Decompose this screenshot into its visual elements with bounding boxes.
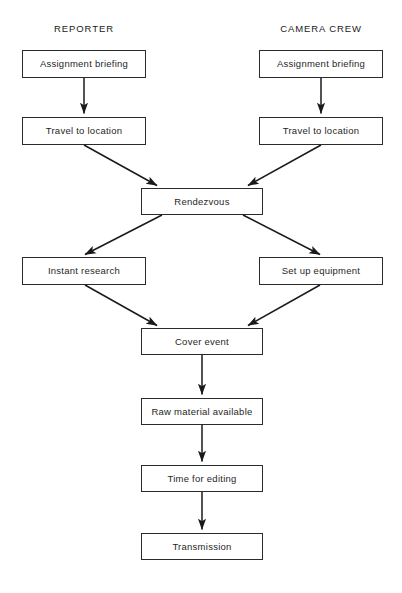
edge-rendezvous-to-instant-research	[85, 215, 162, 255]
edge-rendezvous-to-set-up-equipment	[243, 215, 320, 255]
edge-instant-research-to-cover-event	[85, 285, 157, 326]
node-crew-assignment-briefing[interactable]: Assignment briefing	[259, 50, 383, 78]
edge-set-up-equipment-to-cover-event	[248, 285, 320, 326]
node-label: Rendezvous	[174, 197, 229, 207]
node-label: Instant research	[48, 266, 120, 276]
flowchart-diagram: REPORTER CAMERA CREW Assignment briefing…	[0, 0, 402, 593]
node-rendezvous[interactable]: Rendezvous	[141, 188, 263, 215]
node-label: Raw material available	[151, 407, 252, 417]
node-label: Travel to location	[46, 126, 123, 136]
node-reporter-travel-to-location[interactable]: Travel to location	[22, 117, 146, 145]
node-label: Set up equipment	[282, 266, 360, 276]
node-transmission[interactable]: Transmission	[141, 533, 263, 560]
flowchart-connectors-layer	[0, 0, 402, 593]
node-label: Assignment briefing	[40, 59, 128, 69]
column-header-camera-crew: CAMERA CREW	[259, 23, 383, 34]
node-raw-material-available[interactable]: Raw material available	[141, 398, 263, 425]
node-label: Transmission	[172, 542, 231, 552]
node-label: Assignment briefing	[277, 59, 365, 69]
node-cover-event[interactable]: Cover event	[141, 328, 263, 355]
edge-crew-travel-to-rendezvous	[248, 145, 321, 186]
node-set-up-equipment[interactable]: Set up equipment	[259, 257, 383, 285]
node-label: Travel to location	[283, 126, 360, 136]
column-header-reporter: REPORTER	[22, 23, 146, 34]
node-reporter-assignment-briefing[interactable]: Assignment briefing	[22, 50, 146, 78]
node-label: Cover event	[175, 337, 229, 347]
node-crew-travel-to-location[interactable]: Travel to location	[259, 117, 383, 145]
edge-reporter-travel-to-rendezvous	[84, 145, 157, 186]
node-instant-research[interactable]: Instant research	[22, 257, 146, 285]
node-time-for-editing[interactable]: Time for editing	[141, 465, 263, 492]
node-label: Time for editing	[167, 474, 236, 484]
